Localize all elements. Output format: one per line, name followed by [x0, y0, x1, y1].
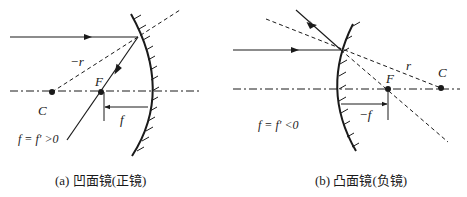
label-focus: F — [385, 71, 395, 86]
panel-a-concave-mirror: −r F C f f = f′ >0 — [10, 10, 200, 156]
label-focal-length: −f — [359, 107, 374, 122]
caption-a: (a) 凹面镜(正镜) — [55, 170, 146, 189]
concave-mirror-surface — [131, 14, 153, 156]
mirror-diagram: −r F C f f = f′ >0 — [0, 0, 467, 197]
virtual-ray-extension — [341, 50, 448, 142]
label-center: C — [438, 65, 447, 80]
center-point-c — [438, 85, 444, 91]
radius-line — [52, 10, 180, 92]
label-relation: f = f′ <0 — [258, 118, 299, 132]
reflected-ray — [296, 10, 341, 50]
focus-point-f — [98, 89, 104, 95]
label-focus: F — [94, 74, 104, 89]
label-relation: f = f′ >0 — [18, 132, 59, 146]
label-focal-length: f — [120, 112, 126, 127]
label-center: C — [38, 103, 47, 118]
radius-line — [266, 19, 441, 88]
reflected-ray-arrow-icon — [115, 64, 122, 75]
convex-mirror-surface — [337, 24, 356, 151]
caption-b: (b) 凸面镜(负镜) — [315, 170, 407, 189]
center-point-c — [49, 89, 55, 95]
mirror-hatching — [134, 15, 159, 151]
label-radius: r — [406, 58, 412, 73]
focus-point-f — [385, 86, 391, 92]
mirror-hatching — [339, 22, 360, 147]
panel-b-convex-mirror: r F C −f f = f′ <0 — [233, 10, 460, 151]
incident-ray-arrow-icon — [291, 47, 299, 53]
incident-ray-arrow-icon — [84, 34, 92, 40]
label-radius: −r — [70, 54, 85, 69]
